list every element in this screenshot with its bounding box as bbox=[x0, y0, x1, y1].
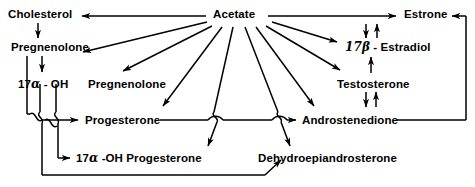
edge-acetate-testosterone bbox=[266, 26, 340, 70]
node-acetate[interactable]: Acetate bbox=[213, 8, 255, 21]
pathway-edges-layer bbox=[0, 0, 475, 187]
node-hydroxy-pregnenolone[interactable]: 17α - OH bbox=[18, 78, 68, 91]
node-pregnenolone-2[interactable]: Pregnenolone bbox=[88, 78, 166, 91]
node-testosterone[interactable]: Testosterone bbox=[337, 78, 410, 91]
node-cholesterol[interactable]: Cholesterol bbox=[8, 8, 72, 21]
edge-androstenedione-estrone bbox=[396, 16, 466, 120]
edge-progesterone-androstenedione bbox=[160, 116, 296, 120]
edge-acetate-hydroxy-progesterone bbox=[208, 27, 233, 146]
node-progesterone[interactable]: Progesterone bbox=[85, 114, 160, 127]
edge-acetate-dehydroepiandrosterone bbox=[245, 27, 290, 146]
node-hydroxy-progesterone[interactable]: 17α -OH Progesterone bbox=[76, 152, 202, 165]
edge-acetate-androstenedione bbox=[256, 27, 314, 106]
node-dehydroepiandrosterone[interactable]: Dehydroepiandrosterone bbox=[258, 152, 397, 165]
edge-hydroxy-pregnenolone-hydroxy-progesterone bbox=[55, 84, 70, 158]
edge-pregnenolone-progesterone bbox=[27, 56, 78, 127]
edge-testosterone-androstenedione bbox=[366, 92, 376, 107]
edge-acetate-pregnenolone bbox=[83, 22, 207, 52]
steroid-pathway-diagram: Cholesterol Acetate Estrone Pregnenolone… bbox=[0, 0, 475, 187]
edge-acetate-pregnenolone-2 bbox=[123, 26, 212, 71]
edge-estrone-estradiol bbox=[366, 24, 377, 38]
edge-acetate-progesterone bbox=[163, 27, 222, 106]
node-pregnenolone[interactable]: Pregnenolone bbox=[11, 41, 89, 54]
edge-acetate-estradiol bbox=[272, 22, 337, 42]
node-estrone[interactable]: Estrone bbox=[404, 8, 448, 21]
node-estradiol[interactable]: 17β - Estradiol bbox=[345, 41, 431, 54]
node-androstenedione[interactable]: Androstenedione bbox=[302, 114, 398, 127]
edge-hop-vertical-left bbox=[39, 84, 43, 175]
